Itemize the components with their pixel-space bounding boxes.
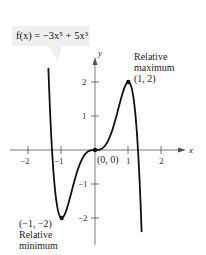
- min-point-label: (−1, −2): [19, 218, 52, 229]
- max-point-marker: [126, 80, 130, 84]
- min-label-line1: Relative: [19, 229, 52, 240]
- origin-label: (0, 0): [97, 154, 119, 165]
- max-label-line1: Relative: [134, 51, 167, 62]
- y-tick-label: −1: [78, 179, 88, 189]
- y-tick-label: 2: [82, 77, 87, 87]
- y-tick-label: −2: [78, 213, 88, 223]
- y-axis-arrow-icon: [93, 57, 98, 65]
- min-point-marker: [60, 216, 64, 220]
- x-tick-label: −1: [54, 156, 64, 166]
- callout-pointer: [48, 46, 62, 62]
- x-tick-label: 1: [126, 156, 131, 166]
- min-label-line2: minimum: [19, 240, 58, 251]
- x-tick-label: −2: [20, 156, 30, 166]
- y-tick-label: 1: [82, 111, 87, 121]
- origin-point-marker: [93, 148, 97, 152]
- x-axis-label: x: [189, 145, 193, 156]
- equation-label: f(x) = −3x⁵ + 5x³: [16, 30, 88, 41]
- x-tick-label: 2: [159, 156, 164, 166]
- max-point-label: (1, 2): [134, 73, 156, 84]
- max-label-line2: maximum: [134, 62, 175, 73]
- x-axis-arrow-icon: [178, 148, 186, 153]
- y-axis-label: y: [98, 48, 102, 59]
